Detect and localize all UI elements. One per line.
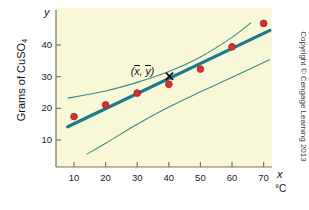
data-point xyxy=(71,113,78,120)
x-tick-label: 30 xyxy=(127,172,147,183)
y-axis-title: Grams of CuSO4 xyxy=(15,15,27,145)
x-tick-label: 10 xyxy=(64,172,84,183)
y-axis-title-subscript: 4 xyxy=(20,39,29,43)
upper-confidence-band xyxy=(68,23,251,98)
data-point xyxy=(197,66,204,73)
y-axis-title-main: Grams of CuSO xyxy=(15,43,27,121)
copyright-notice: Copyright © Cengage Learning 2013 xyxy=(299,22,308,172)
paren-close: ) xyxy=(151,65,155,77)
mean-point-marker: ✕ xyxy=(164,69,175,84)
data-point xyxy=(229,43,236,50)
y-tick-marks xyxy=(56,45,61,140)
y-tick-label: 20 xyxy=(30,102,52,113)
y-tick-label: 10 xyxy=(30,134,52,145)
data-point xyxy=(260,20,267,27)
data-point xyxy=(134,90,141,97)
data-point xyxy=(102,101,109,108)
x-variable-label: x xyxy=(277,168,283,180)
axes-group xyxy=(56,10,272,167)
x-tick-label: 40 xyxy=(159,172,179,183)
y-variable-label: y xyxy=(44,6,50,18)
x-tick-label: 20 xyxy=(96,172,116,183)
y-tick-label: 30 xyxy=(30,71,52,82)
x-unit-label: °C xyxy=(275,183,286,194)
x-tick-label: 70 xyxy=(254,172,274,183)
figure-container: Grams of CuSO4 y x °C (x, y) ✕ Copyright… xyxy=(0,0,309,210)
x-tick-marks xyxy=(74,162,264,167)
y-tick-label: 40 xyxy=(30,39,52,50)
x-tick-label: 60 xyxy=(222,172,242,183)
x-tick-label: 50 xyxy=(190,172,210,183)
mean-point-annotation: (x, y) xyxy=(131,65,154,77)
